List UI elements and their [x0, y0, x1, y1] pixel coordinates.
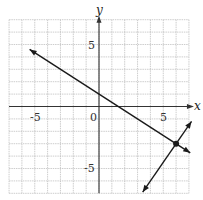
- x-tick-label-pos5: 5: [160, 111, 167, 124]
- axes: [9, 16, 194, 194]
- graph-svg: -5 0 5 5 -5 x y: [0, 0, 203, 200]
- x-axis-arrow-icon: [187, 104, 194, 109]
- plotted-lines: [30, 49, 192, 192]
- coordinate-plane: -5 0 5 5 -5 x y: [0, 0, 203, 200]
- x-tick-label-neg5: -5: [30, 111, 41, 124]
- line-2: [143, 121, 192, 192]
- y-axis-label: y: [95, 3, 103, 17]
- arrow-head-icon: [143, 185, 149, 192]
- intersection-point: [173, 141, 179, 147]
- arrow-head-icon: [185, 121, 191, 128]
- arrow-head-icon: [30, 49, 37, 55]
- x-axis-label: x: [194, 99, 201, 113]
- y-tick-label-neg5: -5: [84, 162, 95, 175]
- line-1: [30, 49, 191, 152]
- y-tick-label-pos5: 5: [88, 39, 95, 52]
- x-tick-label-zero: 0: [90, 111, 97, 124]
